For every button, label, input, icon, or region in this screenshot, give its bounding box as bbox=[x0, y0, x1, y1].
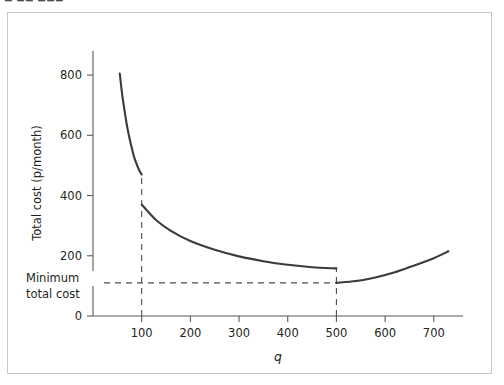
x-axis-title: q bbox=[274, 349, 282, 364]
y-tick-label: 800 bbox=[60, 68, 82, 82]
figure-page: ▬ ▬▬ ▬▬▬ 0200400600800 10020030040050060… bbox=[0, 0, 504, 385]
figure-frame: 0200400600800 100200300400500600700 Mini… bbox=[7, 12, 492, 374]
curve-segment-2 bbox=[142, 205, 337, 269]
y-tick-label: 400 bbox=[60, 189, 82, 203]
annotation-line2: total cost bbox=[26, 287, 80, 301]
x-tick-label: 500 bbox=[325, 326, 347, 340]
data-curves bbox=[120, 74, 449, 283]
x-tick-label: 100 bbox=[131, 326, 153, 340]
curve-segment-1 bbox=[120, 74, 142, 175]
x-axis-ticks: 100200300400500600700 bbox=[131, 316, 445, 340]
total-cost-chart: 0200400600800 100200300400500600700 Mini… bbox=[8, 13, 491, 373]
y-axis-title: Total cost (p/month) bbox=[30, 125, 44, 242]
minimum-total-cost-annotation: Minimum total cost bbox=[26, 271, 99, 301]
annotation-line1: Minimum bbox=[26, 271, 79, 285]
x-tick-label: 700 bbox=[423, 326, 445, 340]
cut-off-text-fragment: ▬ ▬▬ ▬▬▬ bbox=[4, 0, 64, 3]
y-tick-label: 200 bbox=[60, 249, 82, 263]
y-tick-label: 600 bbox=[60, 128, 82, 142]
x-tick-label: 300 bbox=[228, 326, 250, 340]
y-tick-label: 0 bbox=[75, 309, 82, 323]
chart-axes bbox=[93, 51, 463, 316]
curve-segment-3 bbox=[336, 251, 448, 283]
x-tick-label: 600 bbox=[374, 326, 396, 340]
x-tick-label: 200 bbox=[179, 326, 201, 340]
x-tick-label: 400 bbox=[277, 326, 299, 340]
reference-lines bbox=[93, 174, 336, 316]
